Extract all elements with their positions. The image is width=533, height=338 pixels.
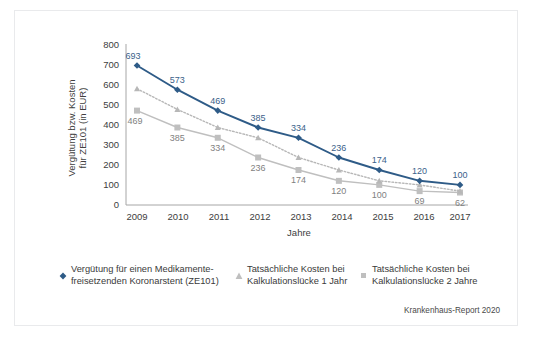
data-label-s3-2010: 385	[170, 133, 185, 143]
plot-area: Vergütung bzw. Kosten für ZE101 (in EUR)…	[0, 0, 533, 338]
legend-item-1[interactable]: Vergütung für einen Medikamente- freiset…	[60, 264, 219, 286]
data-label-s1-2012: 385	[251, 113, 266, 123]
square-marker-icon	[361, 273, 366, 278]
square-marker-icon	[215, 135, 221, 141]
y-tick-600: 600	[103, 79, 119, 90]
chart-legend: Vergütung für einen Medikamente- freiset…	[60, 264, 478, 286]
y-tick-800: 800	[103, 39, 119, 50]
data-label-s1-2015: 174	[372, 155, 387, 165]
x-tick-2011: 2011	[209, 211, 229, 222]
square-marker-icon	[296, 167, 302, 173]
data-label-s3-2013: 174	[291, 175, 306, 185]
diamond-marker-icon	[295, 134, 302, 141]
y-axis-title-line1: Vergütung bzw. Kosten	[66, 79, 77, 176]
square-marker-icon	[417, 188, 423, 194]
data-label-s1-2011: 469	[210, 96, 225, 106]
legend-item-2[interactable]: Tatsächliche Kosten bei Kalkulationslück…	[236, 264, 348, 286]
diamond-marker-icon	[336, 154, 343, 161]
data-label-s3-2015: 100	[372, 190, 387, 200]
triangle-marker-icon	[134, 86, 140, 92]
data-label-s3-2012: 236	[251, 163, 266, 173]
triangle-marker-icon	[236, 273, 243, 279]
x-tick-2013: 2013	[290, 211, 311, 222]
legend-item-1-line2: freisetzenden Koronarstent (ZE101)	[71, 276, 219, 286]
x-tick-2017: 2017	[449, 211, 470, 222]
x-tick-2015: 2015	[372, 211, 393, 222]
legend-item-3-line2: Kalkulationslücke 2 Jahre	[372, 276, 477, 286]
y-tick-100: 100	[103, 179, 119, 190]
triangle-marker-icon	[174, 106, 180, 112]
legend-item-2-line2: Kalkulationslücke 1 Jahr	[247, 276, 347, 286]
y-tick-200: 200	[103, 159, 119, 170]
y-tick-500: 500	[103, 99, 119, 110]
data-label-s3-2009: 469	[127, 116, 142, 126]
data-label-s1-2014: 236	[331, 143, 346, 153]
diamond-marker-icon	[60, 273, 67, 280]
triangle-marker-icon	[336, 167, 342, 173]
x-axis-ticks: 2009 2010 2011 2012 2013 2014 2015 2016 …	[126, 211, 470, 222]
x-tick-2010: 2010	[167, 211, 188, 222]
y-axis-ticks: 800 700 600 500 400 300 200 100 0	[103, 39, 119, 210]
data-label-s1-2009: 693	[125, 51, 140, 61]
y-tick-700: 700	[103, 59, 119, 70]
square-marker-icon	[255, 155, 261, 161]
source-credit: Krankenhaus-Report 2020	[404, 306, 500, 315]
diamond-marker-icon	[416, 178, 423, 185]
data-label-s3-2017: 62	[455, 198, 465, 208]
y-tick-400: 400	[103, 119, 119, 130]
square-marker-icon	[174, 125, 180, 131]
data-label-s1-2017: 100	[452, 170, 467, 180]
data-label-s1-2013: 334	[291, 123, 306, 133]
y-axis-title: Vergütung bzw. Kosten für ZE101 (in EUR)	[66, 79, 88, 176]
data-labels-series-1: 693573469385334236174120100	[125, 51, 467, 180]
x-tick-2012: 2012	[249, 211, 270, 222]
y-tick-0: 0	[114, 199, 119, 210]
square-marker-icon	[134, 108, 140, 114]
y-axis-title-line2: für ZE101 (in EUR)	[77, 88, 88, 169]
legend-item-2-line1: Tatsächliche Kosten bei	[247, 264, 345, 274]
legend-item-3-line1: Tatsächliche Kosten bei	[372, 264, 470, 274]
data-label-s1-2016: 120	[412, 166, 427, 176]
legend-item-1-line1: Vergütung für einen Medikamente-	[71, 264, 214, 274]
diamond-marker-icon	[376, 167, 383, 174]
data-label-s1-2010: 573	[170, 75, 185, 85]
data-label-s3-2016: 69	[415, 196, 425, 206]
diamond-marker-icon	[457, 182, 464, 189]
x-tick-2014: 2014	[331, 211, 352, 222]
legend-item-3[interactable]: Tatsächliche Kosten bei Kalkulationslück…	[361, 264, 477, 286]
x-tick-2009: 2009	[126, 211, 147, 222]
diamond-marker-icon	[255, 124, 262, 131]
square-marker-icon	[336, 178, 342, 184]
x-axis-title: Jahre	[287, 227, 311, 238]
x-tick-2016: 2016	[413, 211, 434, 222]
y-tick-300: 300	[103, 139, 119, 150]
data-label-s3-2011: 334	[210, 143, 225, 153]
diamond-marker-icon	[214, 107, 221, 114]
chart-figure: Vergütung bzw. Kosten für ZE101 (in EUR)…	[0, 0, 533, 338]
data-label-s3-2014: 120	[331, 186, 346, 196]
triangle-marker-icon	[296, 155, 302, 161]
